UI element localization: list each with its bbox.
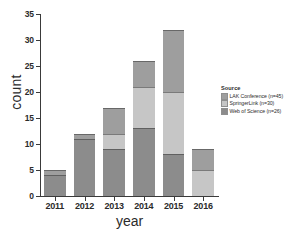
x-axis-tick-mark [174,197,175,201]
x-axis-tick-label: 2016 [183,201,223,211]
legend-entry-label: SpringerLink (n=30) [230,100,275,107]
legend-entry[interactable]: SpringerLink (n=30) [221,100,301,107]
bar-segment[interactable] [103,108,124,134]
bar-group[interactable] [74,14,95,196]
bar-group[interactable] [103,14,124,196]
y-axis-title: count [8,42,24,142]
legend-entry-label: Web of Science (n=26) [230,108,282,115]
bar-segment[interactable] [44,175,65,196]
legend-entries: LAK Conference (n=45)SpringerLink (n=30)… [221,93,301,115]
legend-color-swatch [221,100,228,107]
chart-legend: Source LAK Conference (n=45)SpringerLink… [221,85,301,115]
bar-segment[interactable] [74,134,95,139]
bar-segment[interactable] [192,170,213,196]
y-axis-tick-label: 35 [8,9,34,19]
bar-segment[interactable] [103,149,124,196]
y-axis-tick-label: 5 [8,165,34,175]
legend-color-swatch [221,108,228,115]
bar-segment[interactable] [74,139,95,196]
bar-segment[interactable] [44,170,65,175]
bar-segment[interactable] [163,92,184,154]
y-axis-tick-mark [36,196,40,197]
plot-area [40,14,218,196]
bar-segment[interactable] [133,128,154,196]
bar-segment[interactable] [133,87,154,129]
x-axis-line [40,196,219,197]
y-axis-tick-label: 0 [8,191,34,201]
legend-entry[interactable]: Web of Science (n=26) [221,108,301,115]
x-axis-tick-mark [114,197,115,201]
bar-segment[interactable] [103,134,124,150]
bar-segment[interactable] [163,154,184,196]
x-axis-title: year [40,213,219,229]
legend-title: Source [221,85,301,91]
x-axis-tick-mark [85,197,86,201]
bar-segment[interactable] [133,61,154,87]
bar-segment[interactable] [163,30,184,92]
x-axis-tick-mark [144,197,145,201]
x-axis-tick-mark [203,197,204,201]
legend-entry[interactable]: LAK Conference (n=45) [221,93,301,100]
legend-entry-label: LAK Conference (n=45) [230,93,284,100]
bar-segment[interactable] [192,149,213,170]
x-axis-tick-mark [55,197,56,201]
bar-group[interactable] [192,14,213,196]
bar-group[interactable] [163,14,184,196]
legend-color-swatch [221,93,228,100]
bar-group[interactable] [44,14,65,196]
bar-group[interactable] [133,14,154,196]
stacked-bar-chart: 05101520253035 201120122013201420152016 … [0,0,303,239]
